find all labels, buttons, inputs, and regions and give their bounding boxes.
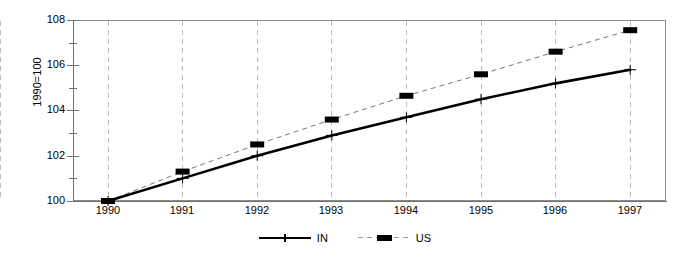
data-point-in-1990 bbox=[102, 196, 114, 206]
data-point-us-1994 bbox=[399, 93, 413, 99]
data-point-in-1994 bbox=[400, 112, 412, 122]
series-markers-in bbox=[102, 65, 636, 206]
data-point-in-1995 bbox=[475, 94, 487, 104]
legend-item-in[interactable]: IN bbox=[259, 232, 328, 244]
data-point-us-1992 bbox=[250, 141, 264, 147]
legend-label-in: IN bbox=[317, 233, 328, 244]
legend-item-us[interactable]: US bbox=[358, 232, 431, 244]
data-point-in-1996 bbox=[550, 78, 562, 88]
data-point-us-1997 bbox=[623, 27, 637, 33]
data-point-us-1995 bbox=[474, 71, 488, 77]
chart-legend: IN US bbox=[0, 232, 690, 244]
data-point-in-1992 bbox=[251, 151, 263, 161]
legend-label-us: US bbox=[416, 233, 431, 244]
legend-swatch-us bbox=[358, 232, 410, 244]
data-point-us-1996 bbox=[549, 49, 563, 55]
legend-swatch-in bbox=[259, 232, 311, 244]
square-marker-icon bbox=[377, 235, 392, 241]
series-layer bbox=[0, 0, 690, 260]
data-point-in-1993 bbox=[326, 130, 338, 140]
series-line-in bbox=[108, 70, 630, 201]
data-point-us-1993 bbox=[325, 117, 339, 123]
chart-screenshot: 108 106 104 102 100 1990=100 1990 1991 1… bbox=[0, 0, 690, 260]
cross-marker-icon bbox=[281, 234, 289, 242]
series-line-us bbox=[108, 30, 630, 201]
data-point-in-1997 bbox=[624, 65, 636, 75]
data-point-in-1991 bbox=[177, 173, 189, 183]
